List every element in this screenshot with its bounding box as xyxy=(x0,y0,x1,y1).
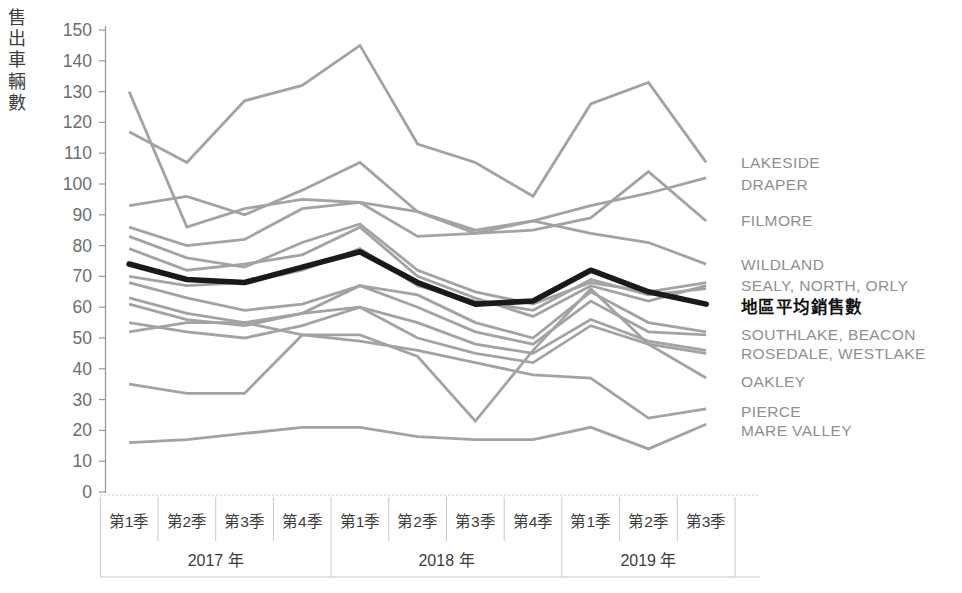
dealer-line-mare-valley xyxy=(129,424,706,449)
dealer-lines xyxy=(129,45,706,448)
year-label: 2018 年 xyxy=(418,552,474,569)
y-tick-label: 120 xyxy=(63,112,92,132)
dealer-end-label: OAKLEY xyxy=(741,373,805,390)
y-tick-label: 20 xyxy=(73,420,93,440)
dealer-end-label: MARE VALLEY xyxy=(741,422,852,439)
y-tick-label: 90 xyxy=(73,205,93,225)
quarter-label: 第2季 xyxy=(167,513,208,530)
quarter-label: 第1季 xyxy=(340,513,381,530)
x-axis-table: 第1季第2季第3季第4季第1季第2季第3季第4季第1季第2季第3季2017 年2… xyxy=(100,495,760,577)
year-label: 2019 年 xyxy=(620,552,676,569)
y-tick-label: 140 xyxy=(63,51,92,71)
y-tick-label: 10 xyxy=(73,451,93,471)
y-tick-label: 110 xyxy=(64,143,92,163)
dealer-line-draper xyxy=(129,92,706,231)
y-tick-label: 150 xyxy=(63,20,92,40)
y-tick-label: 30 xyxy=(73,390,93,410)
quarter-label: 第1季 xyxy=(570,513,611,530)
quarter-label: 第4季 xyxy=(513,513,554,530)
average-end-label: 地區平均銷售數 xyxy=(741,297,863,316)
dealer-end-label: WILDLAND xyxy=(741,256,824,273)
y-tick-label: 50 xyxy=(73,328,93,348)
dealer-line-filmore xyxy=(129,162,706,233)
quarter-label: 第4季 xyxy=(282,513,323,530)
end-labels: LAKESIDEDRAPERFILMOREWILDLANDSEALY, NORT… xyxy=(741,154,926,439)
quarter-label: 第3季 xyxy=(224,513,265,530)
dealer-end-label: ROSEDALE, WESTLAKE xyxy=(741,345,926,362)
dealer-end-label: FILMORE xyxy=(741,212,813,229)
quarter-label: 第3季 xyxy=(686,513,727,530)
dealer-end-label: PIERCE xyxy=(741,403,801,420)
quarter-label: 第3季 xyxy=(455,513,496,530)
y-tick-label: 40 xyxy=(73,359,93,379)
y-tick-label: 80 xyxy=(73,236,93,256)
quarter-label: 第2季 xyxy=(628,513,669,530)
sales-line-chart: 0102030405060708090100110120130140150第1季… xyxy=(0,0,962,593)
dealer-end-label: LAKESIDE xyxy=(741,154,820,171)
quarter-label: 第2季 xyxy=(397,513,438,530)
dealer-end-label: SOUTHLAKE, BEACON xyxy=(741,326,916,343)
dealer-line-rosedale xyxy=(129,304,706,353)
y-tick-label: 0 xyxy=(82,482,92,502)
y-tick-label: 130 xyxy=(63,82,92,102)
y-axis: 0102030405060708090100110120130140150 xyxy=(63,20,106,502)
chart-page: 售出車輛數 0102030405060708090100110120130140… xyxy=(0,0,962,593)
y-tick-label: 100 xyxy=(63,174,92,194)
y-tick-label: 70 xyxy=(73,266,93,286)
y-tick-label: 60 xyxy=(73,297,93,317)
dealer-end-label: SEALY, NORTH, ORLY xyxy=(741,277,908,294)
quarter-label: 第1季 xyxy=(109,513,150,530)
dealer-line-lakeside xyxy=(129,45,706,196)
year-label: 2017 年 xyxy=(188,552,244,569)
dealer-end-label: DRAPER xyxy=(741,176,808,193)
